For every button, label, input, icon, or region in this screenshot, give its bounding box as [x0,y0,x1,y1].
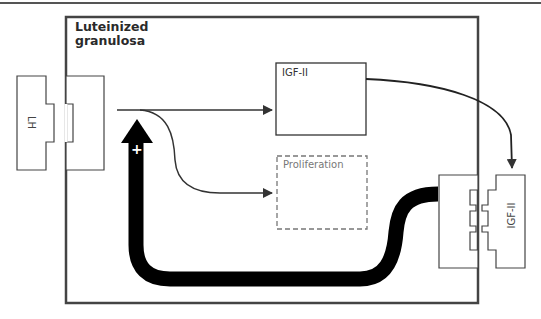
cell-title: Luteinized granulosa [75,20,149,48]
cell-border [66,17,478,303]
proliferation-label: Proliferation [283,159,344,170]
igf-box-label: IGF-II [282,67,308,78]
lh-receptor-shape [66,76,104,170]
cell-title-line2: granulosa [75,34,149,48]
feedback-arrowhead [121,119,153,143]
arrow-igf-secretion [366,79,512,168]
plus-sign-icon: + [131,141,143,157]
arrow-to-proliferation [140,110,272,193]
igf-receptor-shape [439,175,478,268]
igf-ligand-shape [482,175,525,268]
igf-ligand-label: IGF-II [506,198,517,234]
lh-ligand-label: LH [26,115,37,131]
cell-title-line1: Luteinized [75,20,149,34]
